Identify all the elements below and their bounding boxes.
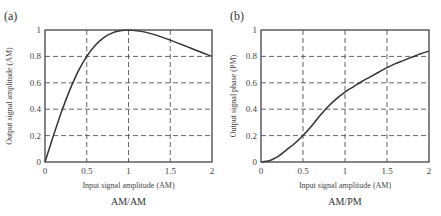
x-tick-label: 0.5 — [297, 166, 309, 176]
x-tick-label: 0 — [43, 166, 48, 176]
y-tick-label: 0.6 — [246, 78, 258, 88]
y-tick-label: 0.8 — [30, 51, 42, 61]
y-tick-label: 1 — [37, 25, 42, 35]
y-axis-label: Output signal phase (PM) — [229, 54, 238, 137]
x-tick-label: 1 — [343, 166, 348, 176]
x-tick-label: 2 — [210, 166, 215, 176]
x-axis-label: Input signal amplitude (AM) — [82, 181, 175, 190]
y-tick-label: 0.2 — [30, 131, 41, 141]
x-tick-label: 1 — [126, 166, 131, 176]
y-tick-label: 0.4 — [246, 104, 258, 114]
x-tick-label: 1.5 — [165, 166, 177, 176]
y-tick-label: 0.8 — [246, 51, 258, 61]
x-tick-label: 0 — [259, 166, 264, 176]
x-tick-label: 2 — [427, 166, 432, 176]
y-tick-label: 0.2 — [246, 131, 257, 141]
panel-label: (b) — [230, 9, 244, 23]
figure: 00.511.5200.20.40.60.81Input signal ampl… — [0, 0, 441, 216]
y-axis-label: Output signal amplitude (AM) — [5, 47, 14, 145]
x-axis-label: Input signal amplitude (AM) — [299, 181, 392, 190]
y-tick-label: 1 — [253, 25, 258, 35]
y-tick-label: 0.4 — [30, 104, 42, 114]
x-tick-label: 1.5 — [381, 166, 393, 176]
x-tick-label: 0.5 — [81, 166, 93, 176]
chart-caption: AM/PM — [328, 196, 361, 207]
chart-am-am: 00.511.5200.20.40.60.81Input signal ampl… — [4, 9, 214, 207]
y-tick-label: 0 — [253, 157, 258, 167]
grid-lines — [261, 30, 429, 162]
y-tick-label: 0.6 — [30, 78, 42, 88]
chart-am-pm: 00.511.5200.20.40.60.81Input signal ampl… — [229, 9, 431, 207]
panel-label: (a) — [4, 9, 17, 23]
y-tick-label: 0 — [37, 157, 42, 167]
chart-caption: AM/AM — [111, 196, 146, 207]
grid-lines — [45, 30, 212, 162]
